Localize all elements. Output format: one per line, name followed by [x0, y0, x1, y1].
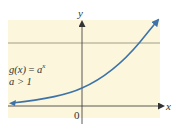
origin-label: 0	[74, 110, 80, 121]
y-axis-label: y	[78, 8, 83, 19]
function-label: g(x) = ax	[9, 63, 45, 75]
x-axis-label: x	[166, 101, 171, 112]
exponent: x	[42, 62, 45, 70]
function-name: g(x)	[9, 64, 26, 75]
equals-sign: =	[29, 64, 35, 75]
condition-label: a > 1	[9, 77, 32, 88]
